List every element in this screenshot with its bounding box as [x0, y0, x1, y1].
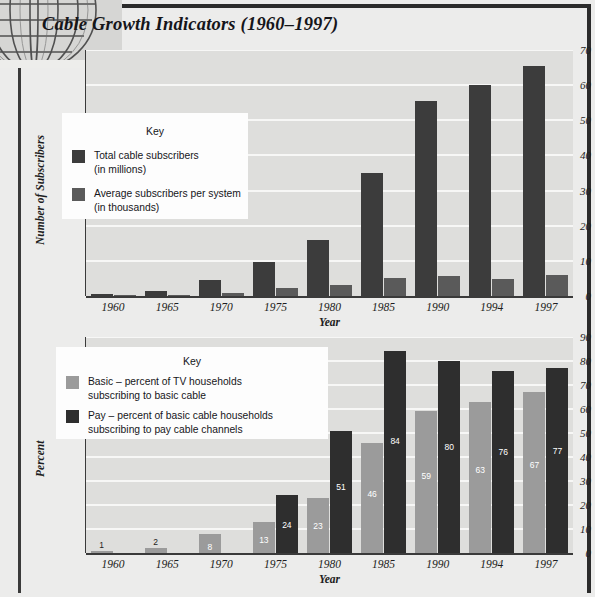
bar-value-label: 84: [384, 436, 406, 446]
bar: [253, 262, 275, 296]
bar-value-label: 51: [330, 482, 352, 492]
bar-value-label: 46: [361, 489, 383, 499]
legend-item-label: Basic – percent of TV households subscri…: [88, 375, 242, 402]
y-axis-tick-label: 10: [530, 523, 591, 535]
x-axis-tick-label: 1994: [480, 558, 503, 570]
gridline: [86, 50, 573, 51]
y-axis-tick-label: 40: [530, 451, 591, 463]
bar: 76: [492, 371, 514, 553]
legend-color-swatch: [66, 376, 79, 389]
y-axis-tick-label: 50: [530, 427, 591, 439]
bar: [307, 240, 329, 296]
gridline: [86, 225, 573, 227]
legend-item-label: Average subscribers per system (in thous…: [94, 187, 241, 214]
gridline: [86, 337, 573, 338]
bar: [415, 101, 437, 296]
legend-title: Key: [56, 355, 328, 367]
chart-legend: KeyTotal cable subscribers (in millions)…: [62, 113, 248, 219]
bar: 23: [307, 498, 329, 553]
x-axis-tick-label: 1985: [372, 301, 395, 313]
x-axis-tick-label: 1975: [264, 558, 287, 570]
x-axis-tick-label: 1965: [156, 558, 179, 570]
y-axis-tick-label: 30: [530, 475, 591, 487]
basic-pay-percent-chart: 1281324235146845980637667770102030405060…: [18, 329, 591, 593]
x-axis-title: Year: [319, 316, 340, 328]
x-axis-tick-label: 1960: [102, 301, 125, 313]
y-axis-tick-label: 60: [530, 79, 591, 91]
x-axis-line: [86, 296, 573, 298]
bar: 24: [276, 495, 298, 553]
page-title: Cable Growth Indicators (1960–1997): [42, 14, 338, 35]
y-axis-title: Percent: [34, 441, 46, 477]
legend-item: Pay – percent of basic cable households …: [66, 409, 324, 436]
legend-item: Total cable subscribers (in millions): [72, 149, 244, 176]
bar-value-label: 63: [469, 465, 491, 475]
legend-color-swatch: [72, 188, 85, 201]
bar: 59: [415, 411, 437, 553]
y-axis-tick-label: 40: [530, 149, 591, 161]
x-axis-title: Year: [319, 573, 340, 585]
bar: [330, 285, 352, 296]
y-axis-tick-label: 10: [530, 255, 591, 267]
bar: [361, 173, 383, 296]
gridline: [86, 260, 573, 262]
bar: [469, 85, 491, 296]
y-axis-tick-label: 90: [530, 331, 591, 343]
x-axis-tick-label: 1960: [102, 558, 125, 570]
bar: 46: [361, 443, 383, 553]
y-axis-tick-label: 30: [530, 185, 591, 197]
bar-value-label: 76: [492, 447, 514, 457]
x-axis-tick-label: 1980: [318, 558, 341, 570]
bar-value-label: 13: [253, 535, 275, 545]
legend-title: Key: [62, 125, 248, 137]
bar: [199, 280, 221, 296]
y-axis-tick-label: 20: [530, 499, 591, 511]
chart-page: Cable Growth Indicators (1960–1997) 0102…: [0, 0, 595, 597]
legend-item: Basic – percent of TV households subscri…: [66, 375, 324, 402]
legend-item-label: Pay – percent of basic cable households …: [88, 409, 273, 436]
x-axis-tick-label: 1970: [210, 301, 233, 313]
x-axis-tick-label: 1970: [210, 558, 233, 570]
bar: [492, 279, 514, 296]
x-axis-tick-label: 1990: [426, 558, 449, 570]
cable-subscribers-chart: 010203040506070Number of Subscribers1960…: [18, 40, 591, 330]
y-axis-tick-label: 70: [530, 379, 591, 391]
bar-value-label: 24: [276, 520, 298, 530]
bar: [438, 276, 460, 296]
legend-item: Average subscribers per system (in thous…: [72, 187, 244, 214]
page-frame-top-rule: [118, 4, 591, 8]
bar: 51: [330, 431, 352, 553]
bar-value-label: 59: [415, 471, 437, 481]
x-axis-tick-label: 1980: [318, 301, 341, 313]
y-axis-tick-label: 60: [530, 403, 591, 415]
legend-item-label: Total cable subscribers (in millions): [94, 149, 199, 176]
gridline: [86, 84, 573, 86]
bar: 63: [469, 402, 491, 553]
bar: [384, 278, 406, 296]
x-axis-tick-label: 1985: [372, 558, 395, 570]
bar-value-label: 80: [438, 442, 460, 452]
bar-value-label: 1: [91, 540, 113, 550]
bar-value-label: 2: [145, 537, 167, 547]
x-axis-tick-label: 1994: [480, 301, 503, 313]
legend-color-swatch: [66, 410, 79, 423]
y-axis-title: Number of Subscribers: [34, 135, 46, 245]
bar-value-label: 8: [199, 542, 221, 552]
y-axis-tick-label: 50: [530, 114, 591, 126]
y-axis-tick-label: 20: [530, 220, 591, 232]
bar: 80: [438, 361, 460, 553]
x-axis-tick-label: 1990: [426, 301, 449, 313]
x-axis-tick-label: 1965: [156, 301, 179, 313]
bar: 8: [199, 534, 221, 553]
x-axis-tick-label: 1975: [264, 301, 287, 313]
bar: [276, 288, 298, 296]
y-axis-tick-label: 80: [530, 355, 591, 367]
x-axis-tick-label: 1997: [534, 558, 557, 570]
x-axis-line: [86, 553, 573, 555]
bar: 13: [253, 522, 275, 553]
y-axis-tick-label: 70: [530, 44, 591, 56]
legend-color-swatch: [72, 150, 85, 163]
chart-legend: KeyBasic – percent of TV households subs…: [56, 347, 328, 439]
x-axis-tick-label: 1997: [534, 301, 557, 313]
bar: 84: [384, 351, 406, 553]
